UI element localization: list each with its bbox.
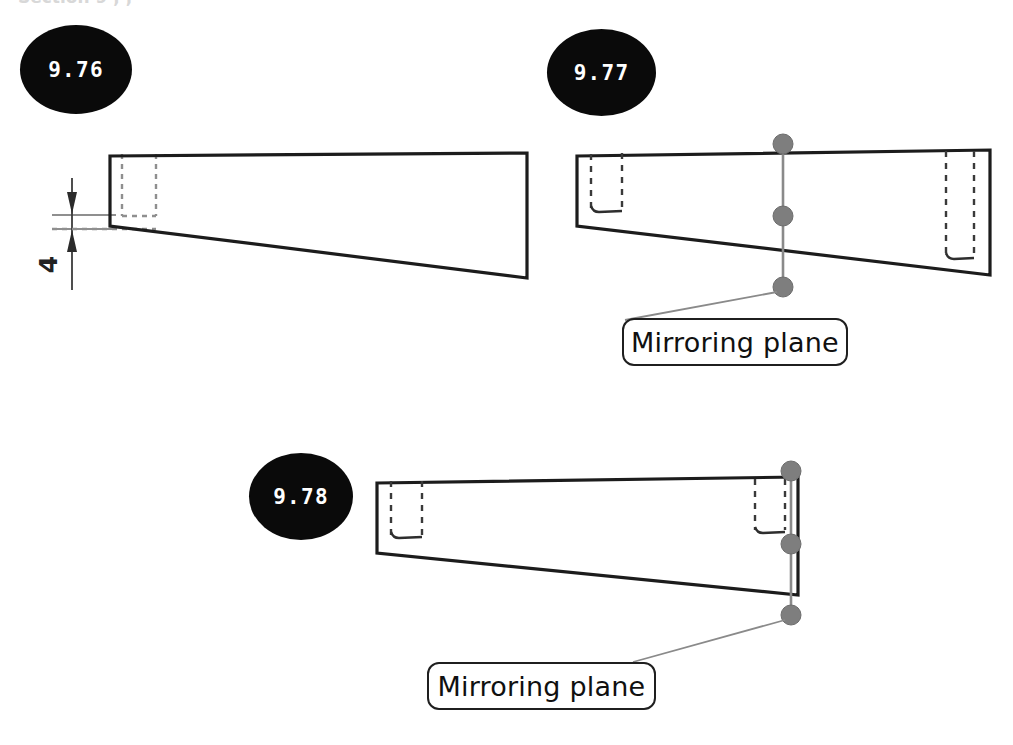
plane-handle-middle <box>781 534 801 554</box>
dimension-line-4 <box>67 178 77 290</box>
mirroring-plane-line-9-77 <box>773 134 793 297</box>
figure-page: Section 9 , , 9.76 <box>0 0 1013 745</box>
plane-handle-bottom <box>773 277 793 297</box>
dimension-value-4: 4 <box>36 248 61 282</box>
hidden-slot-left-9-78 <box>391 481 422 538</box>
plane-handle-middle <box>773 206 793 226</box>
figure-number-badge-9-77: 9.77 <box>547 29 656 116</box>
drawing-9-77 <box>555 120 1013 410</box>
block-outline-9-76 <box>110 153 527 278</box>
block-outline-9-78 <box>377 477 798 595</box>
dimension-extension-lines <box>52 215 116 229</box>
hidden-slot-right-9-78 <box>755 479 785 533</box>
mirroring-plane-callout-9-78: Mirroring plane <box>427 662 656 710</box>
plane-handle-bottom <box>781 605 801 625</box>
figure-number-badge-9-76: 9.76 <box>20 25 132 114</box>
scan-remnant-text: Section 9 , , <box>18 0 218 11</box>
drawing-9-76 <box>30 130 550 320</box>
callout-leader-9-78 <box>633 620 785 662</box>
figure-number-badge-9-78: 9.78 <box>249 453 353 540</box>
callout-leader-9-77 <box>625 292 777 320</box>
mirroring-plane-callout-9-77: Mirroring plane <box>622 318 848 366</box>
hidden-slot-left-9-76 <box>52 154 156 229</box>
plane-handle-top <box>781 461 801 481</box>
hidden-slot-right-9-77 <box>946 151 974 259</box>
hidden-slot-left-9-77 <box>591 153 622 212</box>
plane-handle-top <box>773 134 793 154</box>
